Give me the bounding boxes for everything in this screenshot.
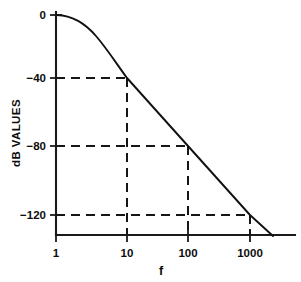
x-tick-label-1000: 1000 xyxy=(237,247,263,259)
x-axis-title: f xyxy=(159,264,164,278)
chart-figure: 0 −40 −80 −120 1 10 100 1000 dB VALUES f xyxy=(0,0,301,282)
y-tick-label-minus-40: −40 xyxy=(26,72,46,84)
db-vs-frequency-plot: 0 −40 −80 −120 1 10 100 1000 dB VALUES f xyxy=(0,0,301,282)
x-tick-label-100: 100 xyxy=(178,247,197,259)
response-curve xyxy=(57,15,273,236)
x-tick-label-1: 1 xyxy=(53,247,60,259)
x-tick-label-10: 10 xyxy=(121,247,134,259)
y-axis-title: dB VALUES xyxy=(10,99,22,167)
y-tick-label-minus-80: −80 xyxy=(26,140,46,152)
y-tick-label-minus-120: −120 xyxy=(20,209,46,221)
y-tick-label-0: 0 xyxy=(40,9,46,21)
